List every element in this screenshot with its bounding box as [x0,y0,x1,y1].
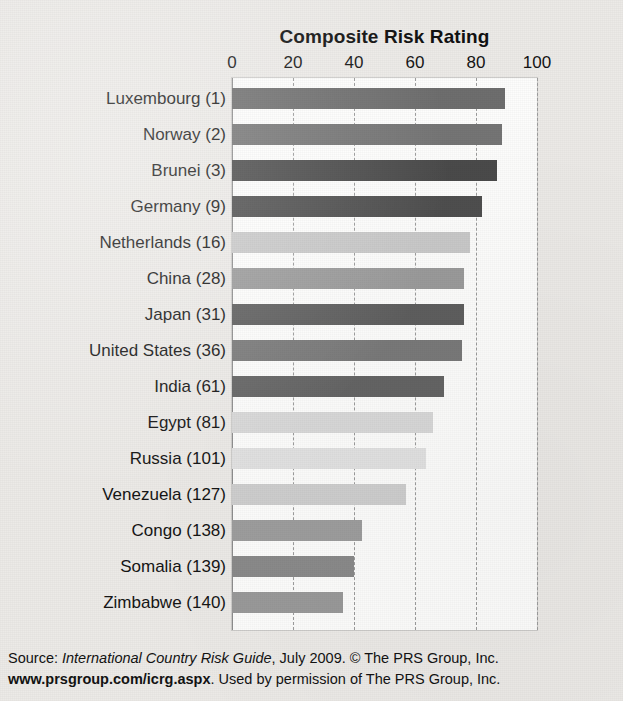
category-label: Germany (9) [0,196,226,217]
y-axis-category-labels: Luxembourg (1)Norway (2)Brunei (3)German… [0,78,226,630]
x-tick-label: 40 [345,53,364,73]
category-label: China (28) [0,268,226,289]
category-label: Norway (2) [0,124,226,145]
x-tick-label: 20 [284,53,303,73]
category-label: Somalia (139) [0,556,226,577]
bar [232,520,362,541]
category-label: United States (36) [0,340,226,361]
category-label: Japan (31) [0,304,226,325]
category-label: Venezuela (127) [0,484,226,505]
chart-title: Composite Risk Rating [232,26,537,48]
category-label: Luxembourg (1) [0,88,226,109]
category-label: India (61) [0,376,226,397]
bar [232,160,497,181]
x-tick-label: 100 [523,53,551,73]
bar [232,592,343,613]
x-tick-label: 60 [406,53,425,73]
bar [232,232,470,253]
x-tick-label: 0 [227,53,236,73]
bar [232,340,462,361]
bar [232,304,464,325]
bar [232,448,426,469]
category-label: Russia (101) [0,448,226,469]
bar [232,124,502,145]
category-label: Congo (138) [0,520,226,541]
bar [232,376,444,397]
bar [232,88,505,109]
x-tick-label: 80 [467,53,486,73]
x-axis-tick-labels: 020406080100 [0,53,623,75]
category-label: Brunei (3) [0,160,226,181]
category-label: Netherlands (16) [0,232,226,253]
source-line-1: Source: International Country Risk Guide… [8,648,618,669]
category-label: Zimbabwe (140) [0,592,226,613]
source-suffix: , July 2009. © The PRS Group, Inc. [272,650,499,666]
bar [232,556,354,577]
gridline [537,78,538,630]
category-label: Egypt (81) [0,412,226,433]
source-prefix: Source: [8,650,62,666]
bar [232,484,406,505]
source-publication-title: International Country Risk Guide [62,650,272,666]
source-permission-text: . Used by permission of The PRS Group, I… [211,671,501,687]
source-website-url[interactable]: www.prsgroup.com/icrg.aspx [8,671,211,687]
bar [232,412,433,433]
plot-area [232,78,537,630]
bar [232,268,464,289]
bar [232,196,482,217]
composite-risk-rating-figure: Composite Risk Rating 020406080100 Luxem… [0,0,623,701]
source-line-2: www.prsgroup.com/icrg.aspx. Used by perm… [8,669,618,690]
figure-source-footer: Source: International Country Risk Guide… [8,648,618,690]
